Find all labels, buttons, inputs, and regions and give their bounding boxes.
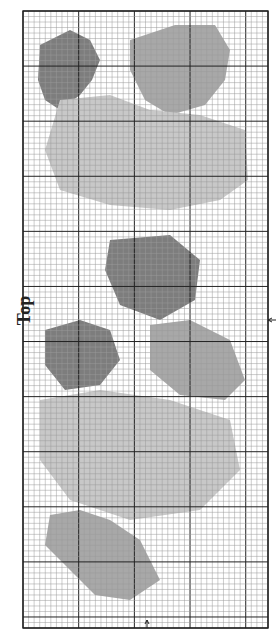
leaf-lower-right	[150, 320, 245, 400]
cross-stitch-chart	[0, 0, 279, 641]
stitch-regions	[38, 25, 248, 600]
orientation-label: Top	[14, 291, 35, 331]
